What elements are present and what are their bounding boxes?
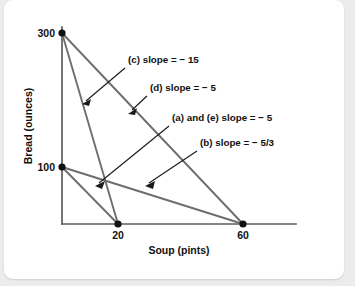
budget-line-chart: 300 100 20 60 Soup (pints) Bread (ounces… [4,0,344,279]
x-tick-label-20: 20 [112,229,124,241]
y-tick-label-100: 100 [37,161,55,173]
marker-bread-300 [58,29,65,36]
annotation-d-leader [132,96,147,110]
annotation-a-e-label: (a) and (e) slope = − 5 [172,112,273,123]
annotation-c-leader [86,68,125,101]
x-axis-title: Soup (pints) [148,244,209,256]
y-tick-label-300: 300 [37,27,55,39]
annotation-a-e-leader [99,126,169,183]
marker-soup-60 [239,220,246,227]
chart-card: 300 100 20 60 Soup (pints) Bread (ounces… [4,0,344,279]
page-background: 300 100 20 60 Soup (pints) Bread (ounces… [0,0,355,286]
annotation-c-label: (c) slope = − 15 [128,54,199,65]
annotation-d-label: (d) slope = − 5 [150,82,216,93]
y-axis-title: Bread (ounces) [22,88,34,164]
x-tick-label-60: 60 [237,229,249,241]
marker-soup-20 [114,220,121,227]
marker-bread-100 [58,163,65,170]
annotation-b-label: (b) slope = − 5/3 [200,137,275,148]
